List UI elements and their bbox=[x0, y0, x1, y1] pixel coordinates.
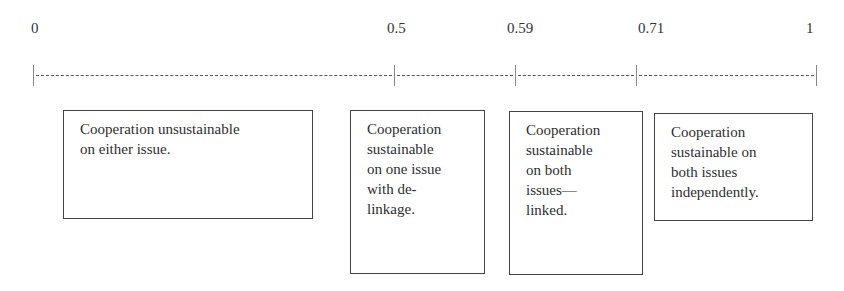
region-box-unsustainable: Cooperation unsustainable on either issu… bbox=[63, 110, 313, 219]
axis-segment-0-59-to-0-71 bbox=[518, 75, 634, 76]
tick-label-1: 1 bbox=[806, 19, 814, 37]
text-line: independently. bbox=[671, 182, 806, 202]
tick-mark-1 bbox=[816, 65, 817, 86]
tick-label-0-5: 0.5 bbox=[387, 19, 406, 37]
text-line: linked. bbox=[526, 200, 636, 220]
tick-mark-0-71 bbox=[636, 65, 637, 86]
tick-mark-0-5 bbox=[394, 65, 395, 86]
tick-label-0-59: 0.59 bbox=[507, 19, 533, 37]
region-box-both-independent: Cooperation sustainable on both issues i… bbox=[654, 113, 813, 221]
text-line: issues— bbox=[526, 180, 636, 200]
region-box-both-linked: Cooperation sustainable on both issues— … bbox=[509, 111, 643, 275]
tick-label-0-71: 0.71 bbox=[638, 19, 664, 37]
tick-label-0: 0 bbox=[31, 19, 39, 37]
text-line: Cooperation bbox=[671, 122, 806, 142]
text-line: Cooperation bbox=[526, 120, 636, 140]
region-text-unsustainable: Cooperation unsustainable on either issu… bbox=[80, 119, 306, 159]
text-line: Cooperation bbox=[367, 119, 478, 139]
text-line: on either issue. bbox=[80, 139, 306, 159]
region-text-both-linked: Cooperation sustainable on both issues— … bbox=[526, 120, 636, 220]
text-line: on one issue bbox=[367, 159, 478, 179]
region-text-one-issue-delinkage: Cooperation sustainable on one issue wit… bbox=[367, 119, 478, 219]
text-line: with de- bbox=[367, 179, 478, 199]
axis-segment-0-to-0-5 bbox=[36, 75, 392, 76]
text-line: Cooperation unsustainable bbox=[80, 119, 306, 139]
text-line: sustainable on bbox=[671, 142, 806, 162]
axis-segment-0-5-to-0-59 bbox=[397, 75, 513, 76]
region-box-one-issue-delinkage: Cooperation sustainable on one issue wit… bbox=[350, 110, 485, 274]
region-text-both-independent: Cooperation sustainable on both issues i… bbox=[671, 122, 806, 202]
text-line: both issues bbox=[671, 162, 806, 182]
axis-segment-0-71-to-1 bbox=[639, 75, 814, 76]
tick-mark-0 bbox=[33, 65, 34, 86]
tick-mark-0-59 bbox=[515, 65, 516, 86]
text-line: linkage. bbox=[367, 199, 478, 219]
text-line: sustainable bbox=[526, 140, 636, 160]
text-line: sustainable bbox=[367, 139, 478, 159]
text-line: on both bbox=[526, 160, 636, 180]
